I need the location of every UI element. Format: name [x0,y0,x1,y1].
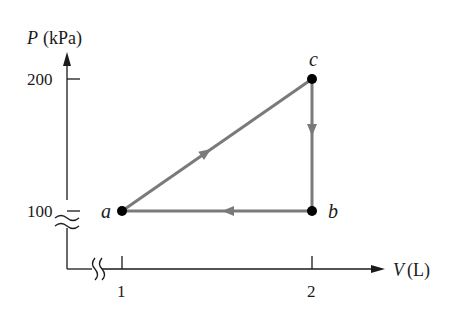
path-a-to-c [122,79,312,211]
point-label-b: b [328,200,338,222]
y-tick-label-100: 100 [27,202,53,221]
point-c [307,74,317,84]
state-points: a b c [101,48,338,222]
x-axis-symbol: V [393,260,406,280]
x-tick-label-2: 2 [307,282,316,301]
x-tick-label-1: 1 [117,282,126,301]
pv-diagram: 200 100 P(kPa) 1 2 V(L) a b c [0,0,463,313]
y-axis-unit: (kPa) [43,28,82,49]
x-axis-break-icon [93,258,105,280]
y-axis: 200 100 P(kPa) [26,28,82,269]
arrow-c-to-b-icon [307,124,317,136]
point-label-c: c [309,48,318,70]
x-axis-unit: (L) [407,260,430,281]
y-tick-label-200: 200 [27,70,53,89]
y-axis-symbol: P [26,28,38,48]
point-label-a: a [101,200,111,222]
cycle-paths [122,79,312,211]
y-axis-break-icon [55,216,79,229]
y-axis-label: P(kPa) [26,28,82,49]
direction-arrows [198,124,317,216]
x-axis-arrow-icon [371,265,385,273]
point-b [307,206,317,216]
point-a [117,206,127,216]
arrow-b-to-a-icon [222,206,234,216]
y-axis-arrow-icon [63,52,71,66]
x-axis: 1 2 V(L) [67,256,430,301]
x-axis-label: V(L) [393,260,430,281]
